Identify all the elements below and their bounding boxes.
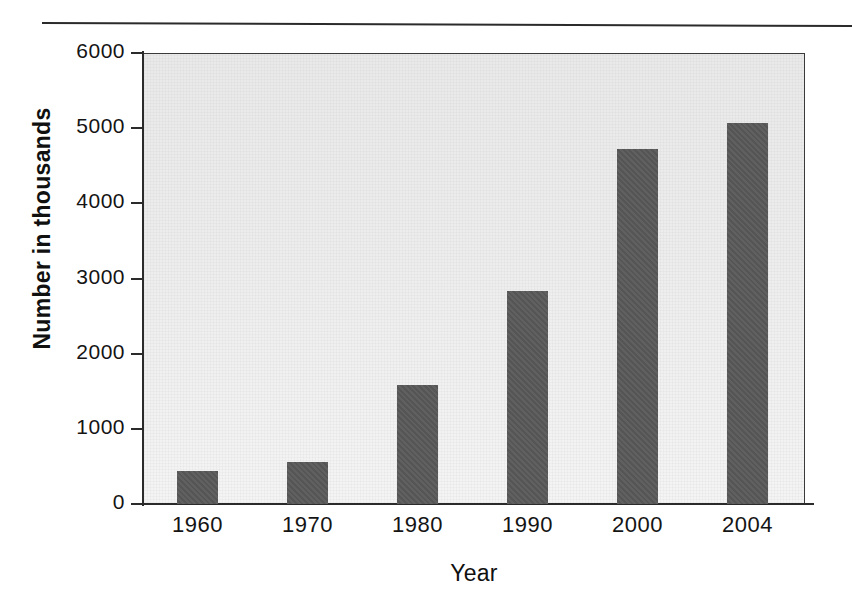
- y-axis-tick-label: 5000: [53, 114, 125, 138]
- x-axis-tick-label: 1990: [468, 512, 588, 538]
- bar-1970: [287, 462, 328, 504]
- y-axis-line: [142, 51, 144, 506]
- bar-1990: [507, 291, 548, 504]
- y-axis-tick-mark: [131, 127, 142, 129]
- bar-1980: [397, 385, 438, 504]
- y-axis-tick-label: 0: [53, 490, 125, 514]
- y-axis-tick-label: 1000: [53, 415, 125, 439]
- x-axis-tick-label: 1970: [248, 512, 368, 538]
- bar-1960: [177, 471, 218, 504]
- y-axis-tick-mark: [131, 278, 142, 280]
- bar-chart-figure: 6000500040003000200010000 19601970198019…: [0, 0, 852, 607]
- y-axis-tick-mark: [131, 428, 142, 430]
- y-axis-tick-mark: [131, 202, 142, 204]
- y-axis-tick-label: 2000: [53, 340, 125, 364]
- x-axis-tick-label: 2000: [578, 512, 698, 538]
- y-axis-tick-label: 4000: [53, 189, 125, 213]
- x-axis-tick-label: 2004: [688, 512, 808, 538]
- x-axis-tick-label: 1960: [138, 512, 258, 538]
- y-axis-tick-mark: [131, 52, 142, 54]
- x-axis-title: Year: [143, 560, 805, 587]
- bar-2004: [727, 123, 768, 504]
- page-top-rule: [42, 22, 852, 27]
- x-axis-line: [142, 503, 814, 505]
- y-axis-tick-label: 6000: [53, 39, 125, 63]
- y-axis-title: Number in thousands: [29, 69, 56, 389]
- y-axis-tick-mark: [131, 503, 142, 505]
- y-axis-tick-mark: [131, 353, 142, 355]
- bar-2000: [617, 149, 658, 504]
- x-axis-tick-label: 1980: [358, 512, 478, 538]
- plot-area: [143, 53, 805, 504]
- y-axis-tick-label: 3000: [53, 265, 125, 289]
